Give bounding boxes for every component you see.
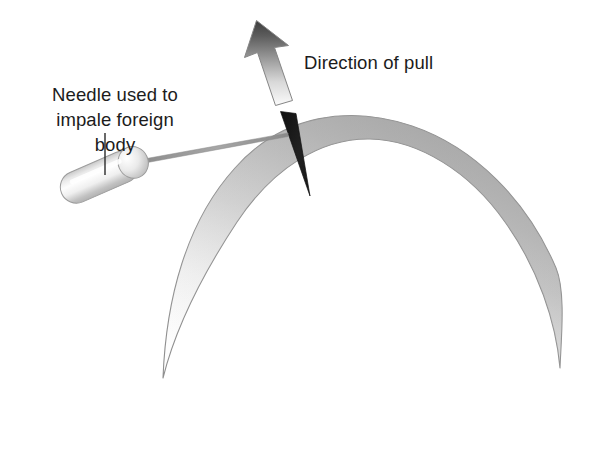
direction-of-pull-arrow (245, 21, 293, 106)
medical-illustration: Direction of pull Needle used to impale … (0, 0, 596, 449)
needle-caption-line-1: Needle used to (36, 82, 194, 107)
tissue-dome-shape (163, 116, 562, 378)
tissue-dome (163, 116, 562, 378)
direction-of-pull-label: Direction of pull (304, 50, 433, 75)
needle-caption: Needle used to impale foreign body (36, 82, 194, 157)
figure-canvas (0, 0, 596, 449)
needle-caption-line-2: impale foreign body (36, 107, 194, 157)
pull-arrow-shape (245, 21, 293, 106)
tissue-dome-shading (163, 116, 562, 378)
